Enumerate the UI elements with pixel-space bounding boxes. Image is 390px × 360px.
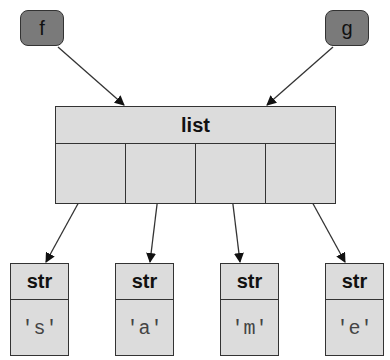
str-type-label: str [27, 270, 53, 293]
arrow-g-to-list [267, 47, 333, 105]
variable-f: f [20, 10, 64, 46]
str-type-header: str [11, 264, 68, 300]
arrow-f-to-list [58, 47, 124, 105]
str-type-header: str [116, 264, 173, 300]
str-type-label: str [342, 270, 368, 293]
str-type-header: str [326, 264, 383, 300]
str-type-label: str [132, 270, 158, 293]
str-value: 'm' [221, 300, 278, 356]
str-object-s: str 's' [10, 263, 69, 356]
str-object-a: str 'a' [115, 263, 174, 356]
str-value: 'e' [326, 300, 383, 356]
str-value-text: 'a' [126, 317, 162, 340]
str-value-text: 'e' [336, 317, 372, 340]
list-cell-3 [266, 144, 335, 203]
str-type-header: str [221, 264, 278, 300]
variable-g-label: g [341, 17, 352, 40]
list-object: list [55, 106, 336, 204]
str-object-e: str 'e' [325, 263, 384, 356]
list-type-header: list [56, 107, 335, 144]
str-type-label: str [237, 270, 263, 293]
str-object-m: str 'm' [220, 263, 279, 356]
str-value: 'a' [116, 300, 173, 356]
list-cell-2 [196, 144, 266, 203]
list-type-label: list [181, 114, 210, 137]
str-value: 's' [11, 300, 68, 356]
variable-f-label: f [39, 17, 45, 40]
list-cells [56, 144, 335, 203]
list-cell-0 [56, 144, 126, 203]
variable-g: g [325, 10, 369, 46]
list-cell-1 [126, 144, 196, 203]
str-value-text: 's' [21, 317, 57, 340]
str-value-text: 'm' [231, 317, 267, 340]
